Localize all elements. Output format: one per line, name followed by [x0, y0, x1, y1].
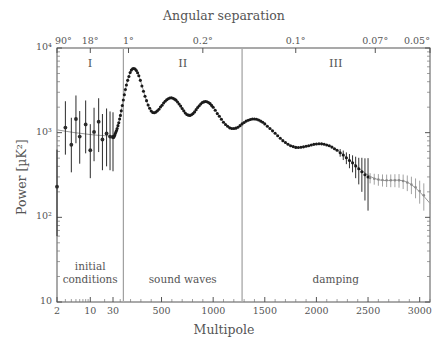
data-point	[121, 104, 124, 107]
data-point	[78, 135, 82, 139]
data-point	[137, 74, 140, 77]
data-point	[274, 132, 277, 135]
data-point	[263, 122, 266, 125]
data-point	[342, 153, 345, 156]
top-tick-label: 0.2°	[193, 35, 213, 46]
data-point	[84, 123, 88, 127]
data-point	[126, 79, 129, 82]
cmb-power-spectrum-figure: Angular separation Power [µK²] Multipole…	[0, 0, 448, 347]
top-tick-label: 18°	[82, 35, 99, 46]
data-point	[414, 186, 417, 189]
data-point	[105, 132, 109, 136]
data-point	[360, 170, 363, 173]
data-point	[142, 90, 145, 93]
data-point	[299, 146, 302, 149]
data-point	[286, 143, 289, 146]
data-point	[276, 134, 279, 137]
data-point	[385, 179, 388, 182]
region-label-ii: II	[178, 56, 187, 70]
data-point	[119, 114, 122, 117]
data-point	[418, 190, 421, 193]
top-tick-label: 1°	[123, 35, 134, 46]
data-point	[271, 129, 274, 132]
data-point	[92, 130, 96, 134]
region-annotation: damping	[313, 273, 360, 286]
x-tick-label: 3000	[408, 305, 432, 316]
region-label-iii: III	[329, 56, 343, 70]
data-point	[354, 164, 357, 167]
y-tick-label: 10⁴	[36, 41, 52, 52]
data-point	[381, 179, 384, 182]
data-point	[118, 117, 121, 120]
x-tick-label: 30	[107, 305, 119, 316]
y-tick-label: 10	[40, 295, 52, 306]
data-point	[139, 79, 142, 82]
data-point	[406, 181, 409, 184]
data-point	[214, 109, 217, 112]
x-tick-label: 1000	[201, 305, 225, 316]
data-point	[268, 127, 271, 130]
data-point	[117, 121, 120, 124]
x-tick-label: 10	[84, 305, 96, 316]
data-point	[124, 88, 127, 91]
data-point	[284, 141, 287, 144]
data-point	[101, 138, 105, 142]
data-point	[398, 179, 401, 182]
data-point	[336, 149, 339, 152]
plot-canvas	[0, 0, 448, 347]
top-tick-label: 0.1°	[286, 35, 306, 46]
data-point	[377, 178, 380, 181]
data-point	[122, 98, 125, 101]
data-point	[266, 125, 269, 128]
data-point	[410, 183, 413, 186]
data-point	[74, 117, 78, 121]
data-point	[348, 159, 351, 162]
data-point	[373, 178, 376, 181]
data-point	[116, 124, 119, 127]
data-point	[281, 139, 284, 142]
top-tick-label: 0.07°	[362, 35, 388, 46]
y-tick-label: 10²	[36, 210, 52, 221]
data-point	[212, 106, 215, 109]
data-point	[402, 180, 405, 183]
data-point	[307, 144, 310, 147]
data-point	[69, 143, 73, 147]
data-point	[127, 75, 130, 78]
data-point	[116, 127, 119, 130]
data-point	[220, 118, 223, 121]
x-tick-label: 2500	[356, 305, 380, 316]
data-point	[216, 112, 219, 115]
x-tick-label: 2	[54, 305, 60, 316]
top-tick-label: 90°	[55, 35, 72, 46]
top-tick-label: 0.05°	[404, 35, 430, 46]
data-point	[136, 71, 139, 74]
x-tick-label: 2000	[304, 305, 328, 316]
data-point	[330, 146, 333, 149]
x-tick-label: 1500	[253, 305, 277, 316]
data-point	[140, 84, 143, 87]
data-point	[345, 156, 348, 159]
data-point	[339, 151, 342, 154]
data-point	[148, 107, 151, 110]
data-point	[120, 109, 123, 112]
data-point	[145, 99, 148, 102]
data-point	[310, 143, 313, 146]
data-point	[218, 115, 221, 118]
data-point	[123, 93, 126, 96]
data-point	[351, 161, 354, 164]
data-point	[302, 145, 305, 148]
data-point	[143, 95, 146, 98]
data-point	[55, 185, 59, 189]
region-annotation: sound waves	[149, 273, 217, 286]
region-label-i: I	[88, 56, 93, 70]
data-point	[147, 103, 150, 106]
data-point	[125, 83, 128, 86]
data-point	[97, 120, 101, 124]
data-point	[363, 173, 366, 176]
data-point	[369, 177, 372, 180]
data-point	[357, 167, 360, 170]
data-point	[423, 194, 426, 197]
y-tick-label: 10³	[36, 126, 52, 137]
data-point	[390, 179, 393, 182]
data-point	[394, 179, 397, 182]
